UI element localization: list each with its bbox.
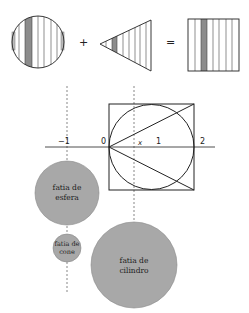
sphere-slice-label-line1: fatia de	[53, 183, 82, 192]
plus-sign: +	[79, 36, 88, 49]
cylinder-slice-label-line1: fatia de	[120, 256, 149, 265]
cylinder-slice-label-line2: cilindro	[119, 266, 149, 275]
cone-slice-label-line1: fatia de	[55, 240, 80, 248]
tick-label-zero: 0	[101, 137, 106, 146]
equals-sign: =	[166, 36, 175, 49]
cylinder-strips-figure	[188, 19, 239, 71]
tick-label-two: 2	[200, 137, 205, 146]
sphere-slice-label-line2: esfera	[55, 193, 79, 202]
tick-label-minus-one: −1	[58, 137, 70, 146]
cone-strips-figure	[100, 10, 151, 80]
cone-slice: fatia de cone	[53, 234, 81, 262]
archimedes-diagram: + =	[0, 0, 249, 313]
sphere-strips-figure	[12, 10, 64, 80]
cylinder-slice: fatia de cilindro	[91, 222, 177, 308]
tick-label-one: 1	[156, 137, 161, 146]
tick-label-x: x	[137, 139, 143, 147]
cone-slice-label-line2: cone	[59, 248, 75, 256]
sphere-slice: fatia de esfera	[35, 161, 99, 225]
